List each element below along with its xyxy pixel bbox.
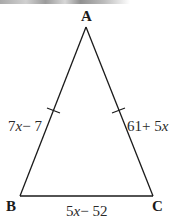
vertex-label-b: B (6, 198, 16, 214)
triangle-diagram: A B C 7x− 7 61+ 5x 5x− 52 (0, 0, 175, 220)
vertex-label-a: A (81, 8, 92, 24)
vertex-label-c: C (152, 198, 163, 214)
side-label-ab-const: − 7 (22, 118, 42, 134)
side-ac (86, 27, 153, 196)
side-label-ac-var: x (161, 118, 169, 134)
side-label-bc-coef: 5 (66, 203, 74, 219)
side-label-bc: 5x− 52 (66, 203, 107, 219)
side-label-ac-const: 61+ 5 (127, 118, 162, 134)
side-label-ac: 61+ 5x (127, 118, 169, 134)
side-label-bc-const: − 52 (80, 203, 107, 219)
side-ab (20, 27, 86, 196)
side-label-ab: 7x− 7 (8, 118, 42, 134)
